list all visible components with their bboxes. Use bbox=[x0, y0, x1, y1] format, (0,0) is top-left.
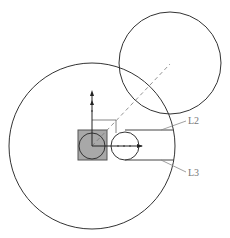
axis-dot bbox=[91, 110, 93, 112]
axis-dot bbox=[117, 145, 119, 147]
axis-dot bbox=[129, 145, 131, 147]
label-l3: L3 bbox=[188, 167, 199, 178]
axis-dot bbox=[123, 145, 125, 147]
label-l2: L2 bbox=[188, 115, 199, 126]
vertical-arrow-mid-icon bbox=[90, 100, 94, 105]
diagram-canvas: L2 L3 bbox=[0, 0, 230, 238]
vertical-arrow-icon bbox=[90, 90, 94, 96]
upper-right-circle bbox=[119, 12, 221, 114]
horizontal-arrow-icon bbox=[137, 144, 143, 148]
